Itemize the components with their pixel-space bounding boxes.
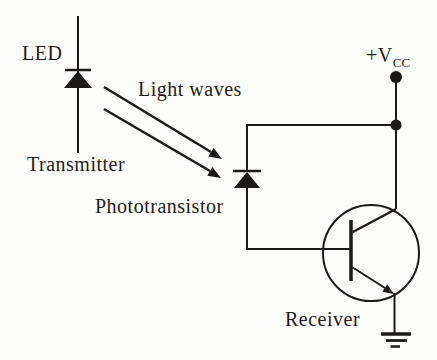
junction-dot — [391, 120, 402, 131]
vcc-label-main: +V — [366, 44, 393, 66]
receiver-label: Receiver — [285, 308, 360, 330]
schematic-svg: LED Transmitter Light waves Phototransis… — [0, 0, 437, 360]
light-wave-arrowhead-2 — [207, 167, 221, 178]
vcc-label: +VCC — [366, 44, 410, 70]
led-symbol — [64, 16, 92, 153]
npn-transistor-symbol — [323, 125, 419, 333]
base-wire — [247, 188, 351, 249]
collector-top-wire — [247, 125, 396, 170]
phototransistor-symbol — [233, 125, 396, 249]
emitter-diagonal — [352, 267, 385, 288]
emitter-arrowhead-icon — [382, 284, 394, 294]
collector-diagonal — [351, 209, 396, 233]
vcc-rail — [390, 71, 402, 131]
vcc-label-subscript: CC — [393, 55, 410, 70]
led-label: LED — [22, 42, 62, 64]
phototransistor-label: Phototransistor — [95, 195, 224, 217]
ground-symbol-icon — [381, 334, 411, 347]
light-wave-arrowhead-1 — [208, 148, 222, 159]
transistor-circle — [323, 205, 419, 301]
phototransistor-triangle-icon — [234, 172, 260, 188]
vcc-terminal-dot — [390, 71, 402, 83]
led-anode-triangle-icon — [64, 71, 92, 88]
light-waves-label: Light waves — [138, 78, 242, 101]
transmitter-label: Transmitter — [27, 153, 125, 175]
circuit-diagram: LED Transmitter Light waves Phototransis… — [0, 0, 437, 360]
